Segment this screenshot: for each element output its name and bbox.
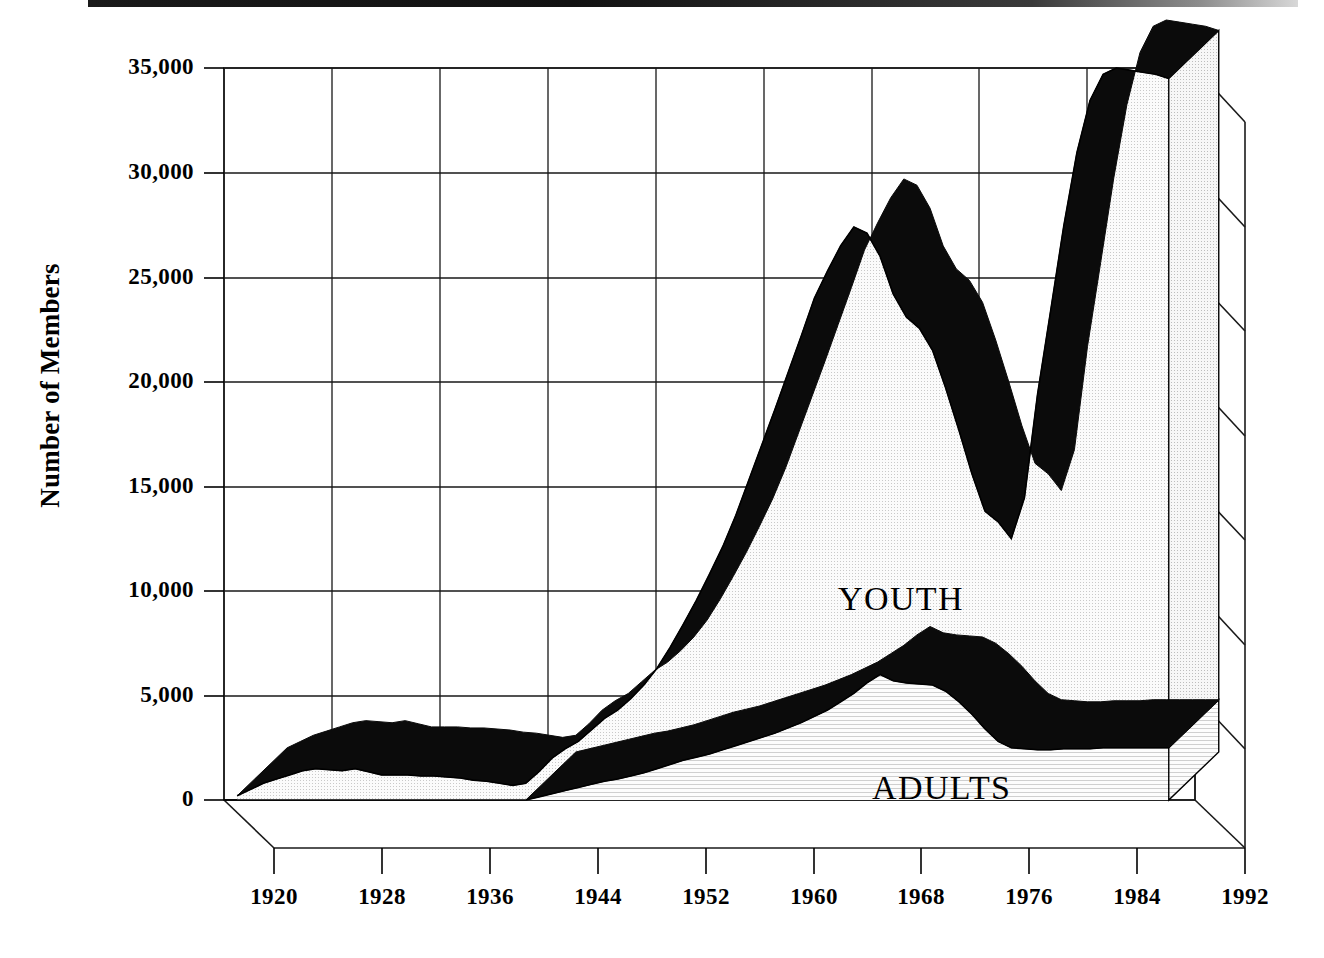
y-tick-10000: 10,000 [44,577,194,603]
x-tick-1936: 1936 [430,884,550,910]
series-label-adults: ADULTS [872,769,1011,807]
chart-plot-area [0,0,1324,958]
x-tick-1976: 1976 [969,884,1089,910]
y-tick-5000: 5,000 [44,682,194,708]
chart-series-layer [224,20,1219,800]
youth-area-side [1169,30,1219,747]
x-tick-1944: 1944 [538,884,658,910]
series-label-youth: YOUTH [838,580,964,618]
y-tick-35000: 35,000 [44,54,194,80]
x-tick-1920: 1920 [214,884,334,910]
membership-area-chart: Number of Members [0,0,1324,958]
y-tick-20000: 20,000 [44,368,194,394]
x-tick-1960: 1960 [754,884,874,910]
x-tick-1928: 1928 [322,884,442,910]
y-tick-30000: 30,000 [44,159,194,185]
x-tick-1992: 1992 [1185,884,1305,910]
x-tick-1984: 1984 [1077,884,1197,910]
x-tick-1952: 1952 [646,884,766,910]
y-tick-0: 0 [44,786,194,812]
y-tick-25000: 25,000 [44,264,194,290]
x-tick-1968: 1968 [861,884,981,910]
y-tick-15000: 15,000 [44,473,194,499]
